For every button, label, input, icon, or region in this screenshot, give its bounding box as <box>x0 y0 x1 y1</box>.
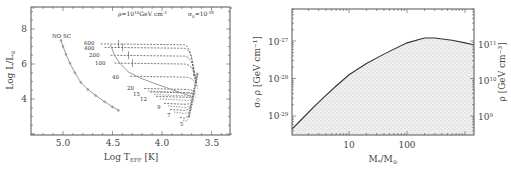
track-12 <box>156 96 194 99</box>
track-600 <box>101 44 194 76</box>
right-x-axis-label: M*/M⊙ <box>369 154 398 165</box>
sigma-annotation: σ0=10-38 <box>188 10 214 19</box>
track-loop-7 <box>174 109 192 114</box>
left-y-axis-label: Log L/L⊙ <box>5 50 16 90</box>
hr-diagram-panel: ρ=1010GeV cm-3 σ0=10-38 NO SC 600 400 20… <box>5 7 231 163</box>
allowed-region-fill <box>292 38 474 135</box>
y-tick-8: 8 <box>21 24 27 34</box>
yright-tick-1e9: 109 <box>478 112 493 123</box>
no-sc-marker <box>62 46 64 48</box>
left-x-axis-label: Log TEFF [K] <box>104 152 158 163</box>
x-tick-100: 100 <box>398 140 415 150</box>
mass-label-100: 100 <box>95 60 106 66</box>
no-sc-marker <box>69 62 71 64</box>
no-sc-marker <box>60 39 62 41</box>
track-5 <box>180 115 189 119</box>
track-100 <box>114 63 196 84</box>
no-sc-marker <box>65 53 67 55</box>
track-7 <box>170 107 191 111</box>
track-loop-12 <box>160 99 195 101</box>
no-sc-marker <box>74 72 76 74</box>
yleft-tick-1e-29: 10-29 <box>268 111 289 122</box>
left-axis-ticks <box>31 7 231 135</box>
sequence-lines <box>60 39 192 111</box>
no-sc-label: NO SC <box>52 33 71 39</box>
y-tick-4: 4 <box>21 94 27 104</box>
mass-label-7: 7 <box>167 112 171 118</box>
track-9 <box>164 103 192 105</box>
right-y-axis-label-right: ρ [GeV cm⁻³] <box>497 43 507 102</box>
x-tick-10: 10 <box>343 140 355 150</box>
yleft-tick-1e-28: 10-28 <box>268 74 289 85</box>
x-tick-4.0: 4.0 <box>155 138 170 148</box>
no-sc-marker <box>95 95 97 97</box>
x-tick-5.0: 5.0 <box>56 138 71 148</box>
no-sc-marker <box>117 109 119 111</box>
track-loop-9 <box>168 105 193 108</box>
yright-tick-1e11: 1011 <box>478 40 496 51</box>
no-sc-marker <box>104 101 106 103</box>
mass-label-400: 400 <box>84 45 95 51</box>
no-sc-marker <box>80 81 82 83</box>
yleft-tick-1e-27: 10-27 <box>268 37 289 48</box>
left-plot-frame <box>31 7 230 135</box>
giant-branch-cluster <box>189 73 198 118</box>
right-y-axis-label-left: σ₀ ρ [GeV cm⁻¹] <box>252 36 262 108</box>
rho-annotation: ρ=1010GeV cm-3 <box>118 10 167 19</box>
cross-section-panel: 10 100 10-27 10-28 10-29 1011 1010 109 M… <box>252 9 507 165</box>
x-tick-4.5: 4.5 <box>106 138 121 148</box>
evolution-tracks <box>101 40 198 121</box>
track-200 <box>111 55 196 82</box>
mass-label-9: 9 <box>157 104 161 110</box>
mass-label-5: 5 <box>180 121 184 127</box>
no-sc-marker <box>112 106 114 108</box>
no-sc-marker <box>87 88 89 90</box>
yright-tick-1e10: 1010 <box>478 76 497 87</box>
mass-label-200: 200 <box>89 52 100 58</box>
figure: ρ=1010GeV cm-3 σ0=10-38 NO SC 600 400 20… <box>0 0 511 169</box>
x-tick-3.5: 3.5 <box>205 138 220 148</box>
mass-label-12: 12 <box>140 96 147 102</box>
y-tick-6: 6 <box>21 59 27 69</box>
mass-label-40: 40 <box>112 74 119 80</box>
